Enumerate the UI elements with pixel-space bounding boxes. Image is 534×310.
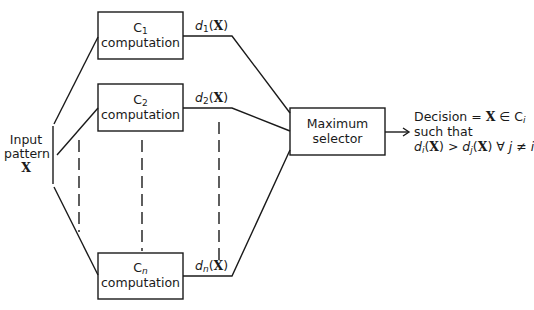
selector-line2: selector bbox=[290, 131, 385, 146]
input-to-c1-line bbox=[54, 37, 98, 124]
cn-box-label: Cn computation bbox=[98, 260, 183, 290]
decision-line1: Decision = X ∈ Ci bbox=[404, 109, 534, 124]
selector-label: Maximum selector bbox=[290, 116, 385, 146]
decision-text: Decision = X ∈ Ci such that di(X) > dj(X… bbox=[404, 109, 534, 154]
decision-line3: di(X) > dj(X) ∀ j ≠ i bbox=[404, 139, 534, 154]
c1-computation-text: computation bbox=[98, 35, 183, 50]
input-label-line2: pattern bbox=[4, 147, 48, 161]
input-to-cn-line bbox=[54, 187, 98, 275]
cn-class-symbol: C bbox=[133, 260, 142, 275]
d2-output-label: d2(X) bbox=[195, 91, 228, 105]
c2-box-label: C2 computation bbox=[98, 92, 183, 122]
c2-class-symbol: C bbox=[133, 92, 142, 107]
c2-output-line bbox=[183, 108, 290, 131]
input-label: Input pattern X bbox=[4, 133, 48, 175]
c1-class-symbol: C bbox=[133, 20, 142, 35]
c2-computation-text: computation bbox=[98, 107, 183, 122]
input-label-line1: Input bbox=[4, 133, 48, 147]
cn-computation-text: computation bbox=[98, 275, 183, 290]
dn-output-label: dn(X) bbox=[195, 259, 228, 273]
decision-line2: such that bbox=[404, 124, 534, 139]
selector-line1: Maximum bbox=[290, 116, 385, 131]
input-to-c2-line bbox=[57, 108, 98, 155]
d1-output-label: d1(X) bbox=[195, 19, 228, 33]
input-symbol: X bbox=[4, 161, 48, 175]
c1-box-label: C1 computation bbox=[98, 20, 183, 50]
